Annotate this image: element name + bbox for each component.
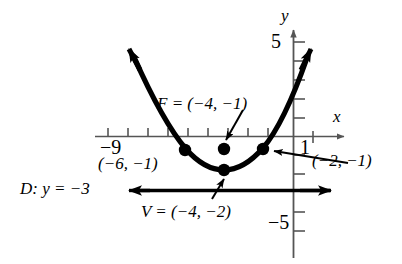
leader-focus <box>226 110 243 140</box>
left-point-label: (−6, −1) <box>98 155 158 172</box>
plot-points <box>179 143 269 176</box>
y-tick-label-neg5: −5 <box>268 212 289 232</box>
focus-label: F = (−4, −1) <box>157 95 247 112</box>
y-axis-label: y <box>281 7 289 24</box>
right-point-label: (−2, −1) <box>312 152 372 169</box>
point-right <box>257 143 269 155</box>
point-vertex <box>218 164 230 176</box>
x-axis-label: x <box>333 108 341 125</box>
vertex-label: V = (−4, −2) <box>141 203 231 220</box>
point-left <box>179 144 191 156</box>
x-tick-label-1: 1 <box>300 137 310 157</box>
y-tick-label-5: 5 <box>271 31 281 51</box>
graph-canvas <box>0 0 402 264</box>
parabola-figure: 5 y x −9 1 −5 F = (−4, −1) (−6, −1) (−2,… <box>0 0 402 264</box>
directrix-label: D: y = −3 <box>20 180 90 197</box>
point-focus <box>218 143 230 155</box>
x-axis-ticks <box>108 128 313 143</box>
